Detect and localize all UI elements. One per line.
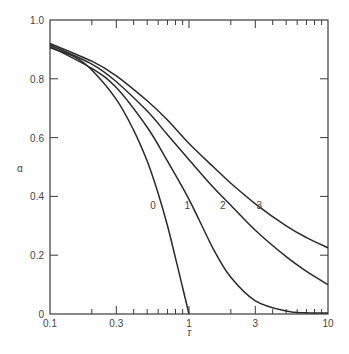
x-tick-label: 0.1: [43, 318, 57, 329]
y-axis-label: α: [17, 163, 23, 174]
curve-1: [50, 47, 328, 314]
curve-labels: 0123: [150, 200, 262, 211]
x-tick-label: 0.3: [109, 318, 123, 329]
curve-label-3: 3: [256, 200, 262, 211]
x-tick-label: 10: [322, 318, 334, 329]
data-curves: [50, 44, 328, 315]
curve-0: [50, 48, 189, 314]
curve-label-1: 1: [184, 200, 190, 211]
y-tick-label: 0.8: [30, 74, 44, 85]
curve-3: [50, 44, 328, 248]
y-tick-label: 1.0: [30, 15, 44, 26]
curve-label-0: 0: [150, 200, 156, 211]
chart-canvas: 0.10.3131000.20.40.60.81.0 0123 τ α: [0, 0, 349, 354]
y-tick-label: 0: [38, 309, 44, 320]
curve-label-2: 2: [220, 200, 226, 211]
curve-2: [50, 45, 328, 285]
y-tick-label: 0.4: [30, 191, 44, 202]
y-tick-label: 0.2: [30, 250, 44, 261]
axis-ticks: 0.10.3131000.20.40.60.81.0: [30, 15, 334, 329]
x-tick-label: 3: [253, 318, 259, 329]
y-tick-label: 0.6: [30, 133, 44, 144]
